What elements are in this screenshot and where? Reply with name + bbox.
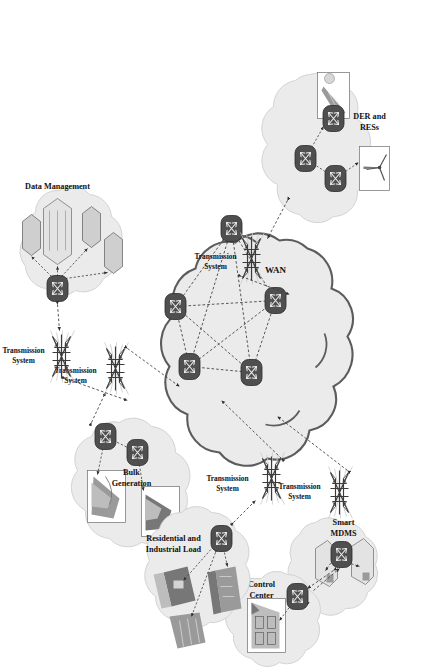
mdms-node-1[interactable]	[331, 541, 352, 567]
tx-load-label-line-2: System	[216, 483, 239, 492]
der-node-2[interactable]	[295, 145, 316, 171]
tx-load-label-line-1: Transmission	[206, 473, 248, 482]
database-hex-large	[43, 198, 71, 264]
mdms-label-line-1: Smart	[332, 517, 354, 526]
control-node-1[interactable]	[287, 583, 308, 609]
bulk-label-line-1: Bulk	[123, 467, 140, 476]
control-label-line-2: Center	[249, 590, 273, 599]
control-room-photo	[247, 598, 285, 652]
wan-label: WAN	[264, 264, 286, 274]
wan-router-1[interactable]	[265, 287, 286, 313]
load-label-line-1: Residential and	[146, 533, 201, 542]
wan-router-3[interactable]	[241, 359, 262, 385]
wind-turbine-photo	[359, 146, 389, 190]
database-hex-3	[22, 214, 40, 255]
mdms-label-line-2: MDMS	[330, 528, 356, 537]
figure-canvas: WAN	[0, 0, 427, 671]
wan-router-2[interactable]	[221, 215, 242, 241]
bulk-node-1[interactable]	[127, 439, 148, 465]
tx-control-label-line-2: System	[288, 491, 311, 500]
tx-bulk-label-line-1: Transmission	[54, 365, 96, 374]
bulk-node-2[interactable]	[95, 423, 116, 449]
load-node-1[interactable]	[211, 525, 232, 551]
load-label-line-2: Industrial Load	[145, 544, 201, 553]
tx-der-label-line-1: Transmission	[194, 251, 236, 260]
der-node-1[interactable]	[325, 165, 346, 191]
tx-datamgmt-label-line-1: Transmission	[2, 345, 44, 354]
der-label-line-1: DER and	[353, 111, 386, 120]
der-label-line-2: RESs	[359, 122, 378, 131]
control-label-line-1: Control	[247, 579, 275, 588]
wan-router-4[interactable]	[165, 293, 186, 319]
diagram-rotated-wrapper: WAN	[0, 0, 427, 671]
bulk-label-line-2: Generation	[111, 478, 151, 487]
database-hex-2	[104, 232, 122, 273]
wan-router-5[interactable]	[179, 353, 200, 379]
network-diagram: WAN	[0, 0, 427, 671]
database-hex-1	[82, 206, 100, 247]
datamgmt-label: Data Management	[25, 181, 90, 190]
server-box-1	[351, 538, 373, 584]
datamgmt-node-1[interactable]	[47, 275, 68, 301]
tx-der-label-line-2: System	[204, 261, 227, 270]
tx-control-label-line-1: Transmission	[278, 481, 320, 490]
der-node-3[interactable]	[323, 105, 344, 131]
tx-datamgmt-label-line-2: System	[12, 355, 35, 364]
